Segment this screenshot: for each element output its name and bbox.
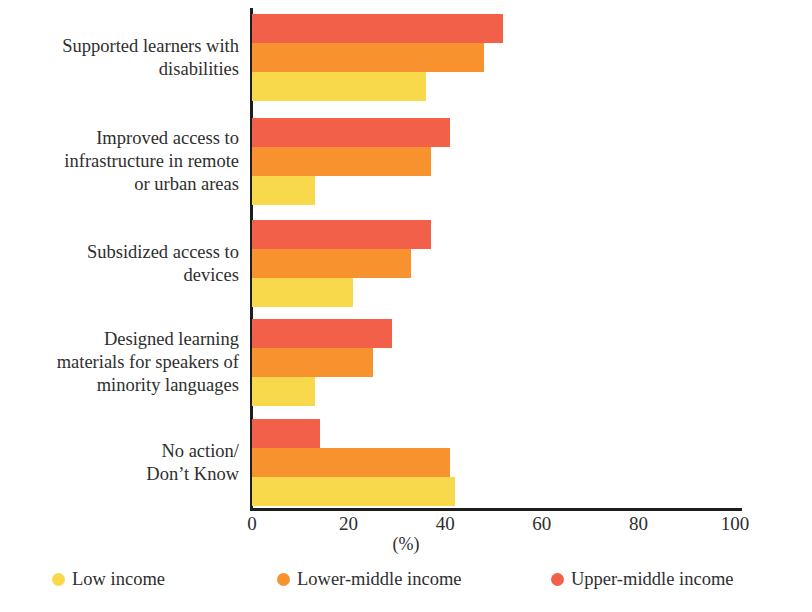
category-label: Improved access to infrastructure in rem… [0, 127, 239, 196]
bar-group: Designed learning materials for speakers… [0, 319, 812, 406]
bar-chart: Supported learners with disabilitiesImpr… [0, 0, 812, 612]
bar [252, 319, 392, 348]
x-tick-label: 40 [436, 512, 455, 536]
bar-fill [252, 477, 455, 506]
bar [252, 477, 455, 506]
bar-fill [252, 43, 484, 72]
bar [252, 43, 484, 72]
bar [252, 147, 431, 176]
bar [252, 377, 315, 406]
legend-item[interactable]: Low income [52, 566, 165, 592]
plot-area: Supported learners with disabilitiesImpr… [0, 0, 812, 520]
category-label: Subsidized access to devices [0, 241, 239, 287]
chart-legend: Low incomeLower-middle incomeUpper-middl… [0, 566, 812, 606]
bar-group: Improved access to infrastructure in rem… [0, 118, 812, 205]
category-label: Designed learning materials for speakers… [0, 328, 239, 397]
bar-group: No action/ Don’t Know [0, 419, 812, 506]
bar-fill [252, 448, 450, 477]
bar-group: Supported learners with disabilities [0, 14, 812, 101]
bar [252, 249, 411, 278]
bar-fill [252, 278, 353, 307]
bar-group: Subsidized access to devices [0, 220, 812, 307]
bar-fill [252, 14, 503, 43]
legend-color-dot-icon [277, 573, 290, 586]
bar [252, 419, 320, 448]
legend-label: Lower-middle income [297, 566, 462, 592]
legend-item[interactable]: Upper-middle income [551, 566, 733, 592]
bar [252, 118, 450, 147]
bar-groups: Supported learners with disabilitiesImpr… [0, 0, 812, 510]
bar-fill [252, 249, 411, 278]
x-tick-label: 60 [532, 512, 551, 536]
category-label: No action/ Don’t Know [0, 440, 239, 486]
bar-fill [252, 319, 392, 348]
x-axis-unit-label: (%) [0, 534, 812, 555]
x-tick-label: 80 [629, 512, 648, 536]
bar-fill [252, 419, 320, 448]
bar-fill [252, 377, 315, 406]
bar [252, 176, 315, 205]
bar [252, 278, 353, 307]
bar-fill [252, 72, 426, 101]
legend-label: Low income [72, 566, 165, 592]
bar [252, 348, 373, 377]
bar-fill [252, 176, 315, 205]
category-label: Supported learners with disabilities [0, 35, 239, 81]
bar-fill [252, 220, 431, 249]
bar [252, 220, 431, 249]
bar-fill [252, 147, 431, 176]
bar-fill [252, 348, 373, 377]
bar [252, 448, 450, 477]
bar [252, 14, 503, 43]
bar-fill [252, 118, 450, 147]
legend-color-dot-icon [551, 573, 564, 586]
legend-color-dot-icon [52, 573, 65, 586]
x-tick-label: 0 [247, 512, 257, 536]
x-tick-label: 100 [721, 512, 750, 536]
legend-item[interactable]: Lower-middle income [277, 566, 462, 592]
legend-label: Upper-middle income [571, 566, 733, 592]
x-tick-label: 20 [339, 512, 358, 536]
bar [252, 72, 426, 101]
